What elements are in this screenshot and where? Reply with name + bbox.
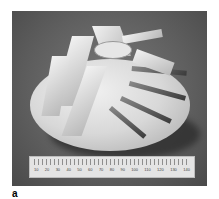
- impeller-photo: 10 20 30 40 50 60 70 80 90 100 110 120 1…: [12, 11, 207, 186]
- ruler-label: 60: [88, 167, 92, 173]
- ruler-label: 50: [77, 167, 81, 173]
- ruler-label: 90: [121, 167, 125, 173]
- figure-label: a: [12, 188, 18, 199]
- ruler-ticks: [34, 159, 190, 165]
- ruler-label: 110: [144, 167, 150, 173]
- ruler-label: 140: [183, 167, 190, 173]
- ruler-label: 40: [66, 167, 70, 173]
- ruler-label: 130: [170, 167, 177, 173]
- impeller-blade: [122, 29, 163, 44]
- ruler-label: 20: [45, 167, 49, 173]
- ruler-label: 70: [99, 167, 103, 173]
- impeller-hub: [94, 41, 132, 59]
- ruler-label: 120: [157, 167, 164, 173]
- ruler-label: 30: [56, 167, 60, 173]
- ruler-label: 100: [131, 167, 138, 173]
- ruler-label: 80: [110, 167, 114, 173]
- ruler-label: 10: [34, 167, 38, 173]
- ruler: 10 20 30 40 50 60 70 80 90 100 110 120 1…: [29, 156, 195, 178]
- ruler-labels: 10 20 30 40 50 60 70 80 90 100 110 120 1…: [34, 167, 190, 173]
